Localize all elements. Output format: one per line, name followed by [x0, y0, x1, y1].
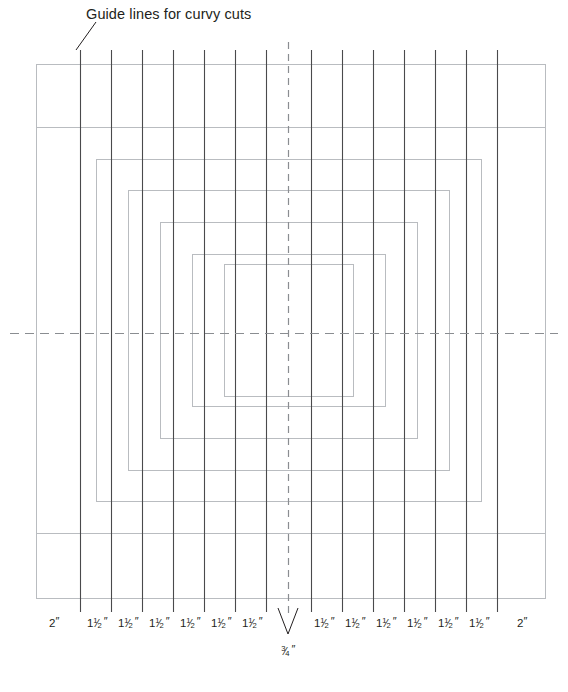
dimension-value: 11⁄2″	[149, 617, 169, 629]
fraction-denominator: 2	[252, 621, 256, 630]
dimension-label-8: 11⁄2″	[345, 617, 365, 629]
dimension-label-7: 11⁄2″	[314, 617, 334, 629]
fraction-denominator: 2	[221, 621, 225, 630]
dimension-label-6: 11⁄2″	[242, 617, 262, 629]
dimension-label-4: 11⁄2″	[180, 617, 200, 629]
dimension-value: 11⁄2″	[211, 617, 231, 629]
dimension-label-1: 11⁄2″	[87, 617, 107, 629]
dimension-value: 11⁄2″	[376, 617, 396, 629]
prime-mark: ″	[197, 615, 200, 627]
fraction-denominator: 2	[417, 621, 421, 630]
prime-mark: ″	[259, 615, 262, 627]
diagram-figure: Guide lines for curvy cuts 2″11⁄2″11⁄2″1…	[0, 0, 568, 692]
fraction-denominator: 2	[159, 621, 163, 630]
center-denominator: 4	[285, 649, 289, 658]
dimension-label-13: 2″	[517, 617, 527, 629]
annotation-label-guide-lines: Guide lines for curvy cuts	[86, 6, 251, 22]
dimension-label-9: 11⁄2″	[376, 617, 396, 629]
fraction-denominator: 2	[324, 621, 328, 630]
fraction-denominator: 2	[97, 621, 101, 630]
dimension-label-0: 2″	[49, 617, 59, 629]
prime-mark: ″	[486, 615, 489, 627]
center-fraction: 3⁄4″	[281, 645, 295, 657]
nested-rect-0	[37, 65, 546, 599]
fraction-denominator: 2	[386, 621, 390, 630]
fraction-denominator: 2	[448, 621, 452, 630]
dimension-value: 11⁄2″	[180, 617, 200, 629]
dimension-label-11: 11⁄2″	[438, 617, 458, 629]
prime-mark: ″	[135, 615, 138, 627]
nested-rect-1	[37, 128, 546, 534]
dimension-label-3: 11⁄2″	[149, 617, 169, 629]
dimension-value: 11⁄2″	[242, 617, 262, 629]
prime-mark: ″	[104, 615, 107, 627]
dimension-label-5: 11⁄2″	[211, 617, 231, 629]
dimension-value: 11⁄2″	[314, 617, 334, 629]
prime-mark: ″	[166, 615, 169, 627]
dimension-label-12: 11⁄2″	[469, 617, 489, 629]
center-dimension-label: 3⁄4″	[281, 645, 295, 657]
prime-mark: ″	[362, 615, 365, 627]
fraction-denominator: 2	[355, 621, 359, 630]
pattern-drawing	[0, 0, 568, 692]
nested-rectangles-group	[37, 65, 546, 599]
fraction-denominator: 2	[128, 621, 132, 630]
dimension-label-2: 11⁄2″	[118, 617, 138, 629]
leader-line	[76, 22, 96, 50]
dimension-value: 11⁄2″	[118, 617, 138, 629]
prime-mark: ″	[524, 615, 527, 627]
dimension-value: 11⁄2″	[469, 617, 489, 629]
prime-mark: ″	[56, 615, 59, 627]
prime-mark: ″	[331, 615, 334, 627]
dimension-label-10: 11⁄2″	[407, 617, 427, 629]
dimension-value: 11⁄2″	[407, 617, 427, 629]
annotation-leader-line	[76, 22, 96, 50]
dimension-value: 11⁄2″	[345, 617, 365, 629]
fraction-denominator: 2	[479, 621, 483, 630]
center-prime: ″	[291, 643, 294, 655]
prime-mark: ″	[455, 615, 458, 627]
fraction-denominator: 2	[190, 621, 194, 630]
prime-mark: ″	[228, 615, 231, 627]
prime-mark: ″	[393, 615, 396, 627]
dimension-value: 11⁄2″	[87, 617, 107, 629]
dimension-value: 11⁄2″	[438, 617, 458, 629]
prime-mark: ″	[424, 615, 427, 627]
